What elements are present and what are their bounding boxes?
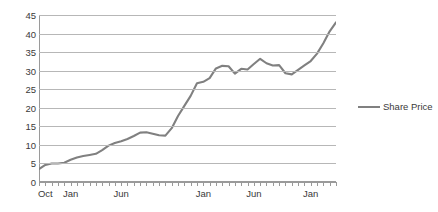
x-tick: [311, 182, 312, 186]
gridline-5: [39, 163, 336, 164]
gridline-10: [39, 145, 336, 146]
x-tick-label-jun: Jun: [113, 188, 128, 199]
y-tick-label-0: 0: [2, 178, 36, 187]
y-tick-label-45: 45: [2, 11, 36, 20]
x-tick: [121, 182, 122, 186]
y-tick-label-25: 25: [2, 85, 36, 94]
x-tick: [279, 182, 280, 186]
x-tick: [172, 182, 173, 186]
x-tick: [90, 182, 91, 186]
x-tick: [323, 182, 324, 186]
x-tick: [153, 182, 154, 186]
x-tick-label-jun: Jun: [246, 188, 261, 199]
y-tick-label-30: 30: [2, 67, 36, 76]
x-tick-label-jan: Jan: [196, 188, 211, 199]
gridline-40: [39, 34, 336, 35]
y-tick-label-35: 35: [2, 48, 36, 57]
x-tick: [102, 182, 103, 186]
x-tick: [235, 182, 236, 186]
x-tick: [254, 182, 255, 186]
x-tick: [317, 182, 318, 186]
gridline-25: [39, 89, 336, 90]
x-tick: [304, 182, 305, 186]
x-tick: [45, 182, 46, 186]
series-line-path: [39, 22, 336, 169]
x-tick: [266, 182, 267, 186]
y-tick-label-10: 10: [2, 141, 36, 150]
chart-container: 454035302520151050 OctJanJunJanJunJan Sh…: [0, 0, 438, 212]
x-tick: [292, 182, 293, 186]
x-tick: [71, 182, 72, 186]
y-tick-label-20: 20: [2, 104, 36, 113]
x-tick: [260, 182, 261, 186]
x-tick: [127, 182, 128, 186]
x-tick-label-oct: Oct: [38, 188, 53, 199]
y-tick-label-5: 5: [2, 159, 36, 168]
x-tick: [58, 182, 59, 186]
chart-legend: Share Price: [358, 101, 433, 112]
x-tick: [115, 182, 116, 186]
x-tick: [203, 182, 204, 186]
y-tick-label-40: 40: [2, 30, 36, 39]
x-tick: [109, 182, 110, 186]
x-tick: [134, 182, 135, 186]
legend-swatch-share-price: [358, 106, 380, 108]
gridline-30: [39, 71, 336, 72]
x-tick: [216, 182, 217, 186]
x-tick: [191, 182, 192, 186]
x-tick: [298, 182, 299, 186]
gridline-45: [39, 15, 336, 16]
x-tick: [248, 182, 249, 186]
gridline-15: [39, 126, 336, 127]
x-tick: [178, 182, 179, 186]
x-tick: [159, 182, 160, 186]
x-tick: [330, 182, 331, 186]
x-tick: [184, 182, 185, 186]
x-tick-label-jan: Jan: [303, 188, 318, 199]
x-tick: [285, 182, 286, 186]
series-share-price: [39, 15, 336, 182]
y-tick-label-15: 15: [2, 122, 36, 131]
y-axis-labels: 454035302520151050: [0, 15, 36, 182]
legend-label-share-price: Share Price: [383, 101, 433, 112]
x-tick: [336, 182, 337, 186]
x-tick: [140, 182, 141, 186]
x-tick: [77, 182, 78, 186]
x-tick: [52, 182, 53, 186]
x-tick: [64, 182, 65, 186]
x-tick: [273, 182, 274, 186]
x-tick: [146, 182, 147, 186]
x-tick: [210, 182, 211, 186]
x-tick: [197, 182, 198, 186]
x-axis-ticks: [39, 182, 336, 187]
x-tick: [39, 182, 40, 186]
x-tick: [222, 182, 223, 186]
x-tick: [229, 182, 230, 186]
x-tick: [96, 182, 97, 186]
x-axis-labels: OctJanJunJanJunJan: [0, 188, 438, 202]
gridline-20: [39, 108, 336, 109]
x-tick: [83, 182, 84, 186]
plot-area: [39, 15, 336, 182]
x-tick: [165, 182, 166, 186]
x-tick: [241, 182, 242, 186]
x-tick-label-jan: Jan: [63, 188, 78, 199]
gridline-35: [39, 52, 336, 53]
